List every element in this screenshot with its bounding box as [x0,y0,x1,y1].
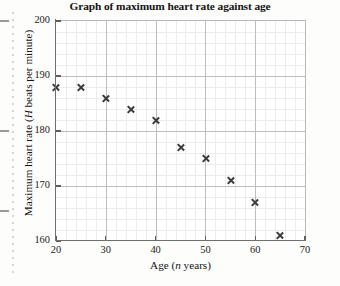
data-point-marker [276,231,285,240]
y-axis-line [55,19,56,241]
x-axis-tick-labels: 203040506070 [0,245,340,259]
marker-stroke [177,144,184,151]
x-axis-tick-label: 40 [141,245,171,255]
grid-minor-horizontal [56,164,305,165]
marker-stroke [227,177,234,184]
chart-title: Graph of maximum heart rate against age [0,0,340,12]
grid-major-horizontal [56,76,305,77]
marker-stroke [227,177,234,184]
y-axis-title-suffix: beats per minute) [22,30,34,110]
grid-major-horizontal [56,131,305,132]
grid-minor-horizontal [56,43,305,44]
grid-minor-horizontal [56,109,305,110]
plot-area [56,20,306,241]
x-axis-tick-label: 20 [41,245,71,255]
x-axis-title: Age (n years) [56,259,305,271]
grid-minor-horizontal [56,54,305,55]
grid-minor-horizontal [56,32,305,33]
grid-minor-horizontal [56,65,305,66]
grid-minor-horizontal [56,197,305,198]
scan-speckle-artifact [12,12,14,274]
grid-major-horizontal [56,186,305,187]
y-axis-tick [56,75,61,76]
grid-minor-horizontal [56,142,305,143]
scan-edge-mark [0,130,9,132]
grid-minor-horizontal [56,87,305,88]
scan-edge-mark [0,210,9,212]
grid-minor-horizontal [56,98,305,99]
y-axis-title-variable: H [22,110,34,118]
x-axis-tick-label: 60 [240,245,270,255]
grid-minor-horizontal [56,153,305,154]
marker-stroke [177,144,184,151]
grid-minor-horizontal [56,219,305,220]
y-axis-title: Maximum heart rate (H beats per minute) [22,3,34,243]
x-axis-tick-label: 50 [190,245,220,255]
y-axis-title-prefix: Maximum heart rate ( [22,118,34,216]
x-axis-line [55,240,306,241]
grid-minor-horizontal [56,230,305,231]
y-axis-tick [56,20,61,21]
x-axis-title-suffix: years) [181,259,211,271]
x-axis-title-prefix: Age ( [150,259,175,271]
marker-stroke [276,232,283,239]
data-point-marker [226,176,235,185]
grid-minor-horizontal [56,120,305,121]
y-axis-tick [56,130,61,131]
marker-stroke [276,232,283,239]
x-axis-tick-label: 30 [91,245,121,255]
scan-edge-mark [0,20,9,22]
chart-figure: Graph of maximum heart rate against age … [0,0,340,286]
y-axis-tick [56,185,61,186]
grid-minor-horizontal [56,175,305,176]
x-axis-tick-label: 70 [290,245,320,255]
data-point-marker [176,143,185,152]
grid-minor-horizontal [56,208,305,209]
